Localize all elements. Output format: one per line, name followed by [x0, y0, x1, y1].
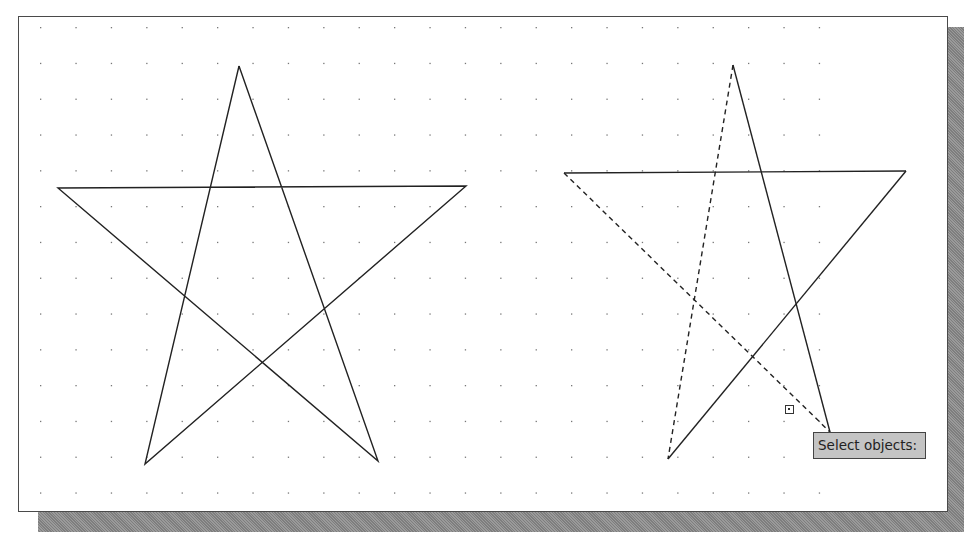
grid-dot	[500, 206, 501, 207]
grid-dot	[536, 27, 537, 28]
grid-dot	[606, 421, 607, 422]
grid-dot	[359, 63, 360, 64]
grid-dot	[429, 492, 430, 493]
grid-dot	[394, 170, 395, 171]
grid-dot	[713, 278, 714, 279]
grid-dot	[571, 313, 572, 314]
grid-dot	[642, 63, 643, 64]
grid-dot	[819, 492, 820, 493]
grid-dots	[40, 27, 820, 494]
grid-dot	[40, 421, 41, 422]
grid-dot	[359, 313, 360, 314]
grid-dot	[642, 457, 643, 458]
grid-dot	[217, 63, 218, 64]
grid-dot	[394, 421, 395, 422]
grid-dot	[359, 385, 360, 386]
grid-dot	[394, 349, 395, 350]
grid-dot	[783, 421, 784, 422]
grid-dot	[288, 63, 289, 64]
grid-dot	[536, 170, 537, 171]
grid-dot	[146, 99, 147, 100]
grid-dot	[713, 99, 714, 100]
grid-dot	[500, 63, 501, 64]
grid-dot	[359, 457, 360, 458]
grid-dot	[677, 99, 678, 100]
grid-dot	[323, 313, 324, 314]
grid-dot	[571, 385, 572, 386]
grid-dot	[217, 242, 218, 243]
grid-dot	[677, 385, 678, 386]
grid-dot	[783, 492, 784, 493]
grid-dot	[323, 63, 324, 64]
grid-dot	[429, 457, 430, 458]
grid-dot	[359, 492, 360, 493]
grid-dot	[394, 492, 395, 493]
grid-dot	[677, 349, 678, 350]
grid-dot	[288, 170, 289, 171]
grid-dot	[40, 134, 41, 135]
grid-dot	[111, 27, 112, 28]
grid-dot	[748, 134, 749, 135]
grid-dot	[571, 63, 572, 64]
line-segment[interactable]	[733, 65, 830, 432]
line-segment[interactable]	[668, 171, 906, 459]
grid-dot	[359, 242, 360, 243]
grid-dot	[111, 134, 112, 135]
grid-dot	[75, 421, 76, 422]
grid-dot	[182, 313, 183, 314]
grid-dot	[40, 492, 41, 493]
grid-dot	[111, 421, 112, 422]
grid-dot	[252, 206, 253, 207]
grid-dot	[429, 170, 430, 171]
grid-dot	[606, 27, 607, 28]
grid-dot	[571, 27, 572, 28]
selected-line-segment[interactable]	[564, 173, 830, 432]
grid-dot	[536, 63, 537, 64]
grid-dot	[748, 313, 749, 314]
grid-dot	[359, 99, 360, 100]
grid-dot	[146, 206, 147, 207]
grid-dot	[323, 27, 324, 28]
grid-dot	[571, 242, 572, 243]
grid-dot	[217, 457, 218, 458]
grid-dot	[819, 134, 820, 135]
grid-dot	[323, 457, 324, 458]
grid-dot	[323, 492, 324, 493]
grid-dot	[677, 63, 678, 64]
grid-dot	[500, 349, 501, 350]
grid-dot	[394, 206, 395, 207]
grid-dot	[819, 313, 820, 314]
grid-dot	[111, 457, 112, 458]
grid-dot	[40, 242, 41, 243]
right-star-segments[interactable]	[564, 65, 906, 459]
grid-dot	[642, 492, 643, 493]
grid-dot	[748, 385, 749, 386]
left-star-polyline[interactable]	[58, 66, 466, 464]
grid-dot	[429, 385, 430, 386]
grid-dot	[359, 27, 360, 28]
grid-dot	[500, 313, 501, 314]
grid-dot	[182, 278, 183, 279]
grid-dot	[677, 492, 678, 493]
grid-dot	[783, 99, 784, 100]
grid-dot	[819, 63, 820, 64]
grid-dot	[288, 27, 289, 28]
grid-dot	[429, 313, 430, 314]
selected-line-segment[interactable]	[668, 65, 733, 459]
grid-dot	[288, 99, 289, 100]
grid-dot	[713, 170, 714, 171]
grid-dot	[182, 492, 183, 493]
grid-dot	[111, 99, 112, 100]
grid-dot	[713, 63, 714, 64]
grid-dot	[217, 313, 218, 314]
grid-dot	[75, 385, 76, 386]
line-segment[interactable]	[564, 171, 906, 173]
grid-dot	[111, 349, 112, 350]
grid-dot	[465, 421, 466, 422]
grid-dot	[606, 242, 607, 243]
grid-dot	[713, 134, 714, 135]
grid-dot	[323, 349, 324, 350]
grid-dot	[748, 421, 749, 422]
grid-dot	[146, 27, 147, 28]
grid-dot	[217, 206, 218, 207]
